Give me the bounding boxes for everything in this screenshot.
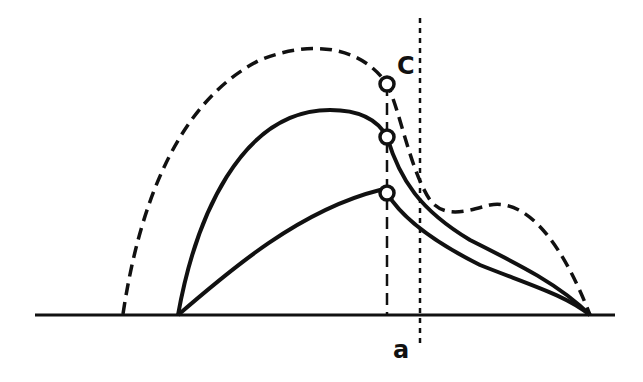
label-c: C bbox=[397, 52, 415, 80]
marker-middle bbox=[380, 130, 394, 144]
lower-solid-curve bbox=[178, 190, 590, 315]
outer-dashed-curve bbox=[123, 49, 590, 315]
marker-bottom bbox=[380, 186, 394, 200]
marker-top-c bbox=[380, 77, 394, 91]
label-a: a bbox=[393, 336, 409, 364]
diagram-canvas: C a bbox=[0, 0, 643, 382]
